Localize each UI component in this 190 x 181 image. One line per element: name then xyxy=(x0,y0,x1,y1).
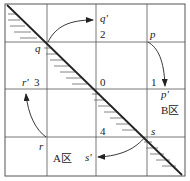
label-s: s xyxy=(151,125,155,137)
region-number-3: 3 xyxy=(34,76,40,88)
region-number-1: 1 xyxy=(151,76,157,88)
label-q-prime: q' xyxy=(100,12,109,24)
label-r-prime: r' xyxy=(22,76,29,88)
region-label-a: A区 xyxy=(53,152,72,164)
region-number-0: 0 xyxy=(100,76,106,88)
label-p-prime: p' xyxy=(160,88,170,100)
arrow-q-to-q-prime xyxy=(48,20,93,42)
region-number-4: 4 xyxy=(100,125,106,137)
arrow-r-to-r-prime xyxy=(26,94,46,137)
label-r: r xyxy=(39,140,44,152)
arrow-s-to-s-prime xyxy=(98,137,145,157)
label-p: p xyxy=(149,28,156,40)
label-q: q xyxy=(35,42,41,54)
region-number-2: 2 xyxy=(100,28,106,40)
region-diagram: 2 3 0 1 4 q' p q r' p' r s s' B区 A区 xyxy=(0,0,190,181)
region-label-b: B区 xyxy=(161,104,179,116)
label-s-prime: s' xyxy=(85,151,92,163)
diagonal-line xyxy=(7,5,182,175)
